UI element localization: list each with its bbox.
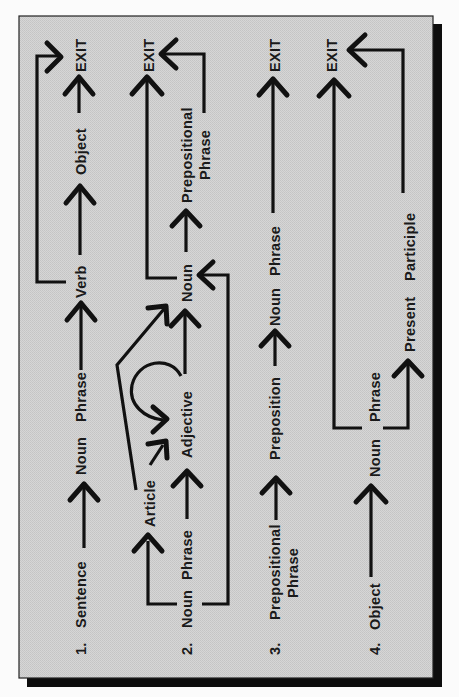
row-2-number: 2.	[179, 642, 195, 655]
node-noun: Noun	[179, 264, 195, 302]
node-present-participle-participle: Participle	[402, 213, 418, 281]
node-sentence: Sentence	[73, 561, 89, 628]
node-noun-phrase-noun: Noun	[73, 437, 89, 475]
node-prepositional-phrase-line2: Phrase	[197, 130, 213, 180]
node-verb: Verb	[73, 265, 89, 298]
row-3-number: 3.	[267, 642, 283, 655]
node-noun-phrase-phrase: Phrase	[267, 226, 283, 276]
node-object: Object	[73, 128, 89, 175]
row-1-number: 1.	[73, 642, 89, 655]
node-noun-phrase-phrase: Phrase	[367, 372, 383, 422]
node-prepositional-phrase-line2: Phrase	[285, 548, 301, 598]
node-preposition: Preposition	[267, 377, 283, 460]
node-noun-phrase-noun: Noun	[367, 439, 383, 477]
node-noun-phrase-noun: Noun	[267, 288, 283, 326]
syntax-diagram: 1. Sentence Noun Phrase Verb Object EXIT…	[0, 0, 459, 697]
node-exit: EXIT	[267, 39, 283, 72]
node-noun-phrase-phrase: Phrase	[73, 372, 89, 422]
node-prepositional-phrase-line1: Prepositional	[267, 524, 283, 620]
node-present-participle-present: Present	[402, 297, 418, 352]
node-article: Article	[142, 480, 158, 527]
node-object: Object	[367, 583, 383, 630]
node-adjective: Adjective	[179, 391, 195, 458]
node-exit: EXIT	[324, 39, 340, 72]
node-exit: EXIT	[73, 39, 89, 72]
row-4-number: 4.	[367, 642, 383, 655]
node-prepositional-phrase-line1: Prepositional	[179, 107, 195, 203]
node-noun-phrase-noun: Noun	[179, 590, 195, 628]
node-exit: EXIT	[141, 39, 157, 72]
node-noun-phrase-phrase: Phrase	[179, 530, 195, 580]
